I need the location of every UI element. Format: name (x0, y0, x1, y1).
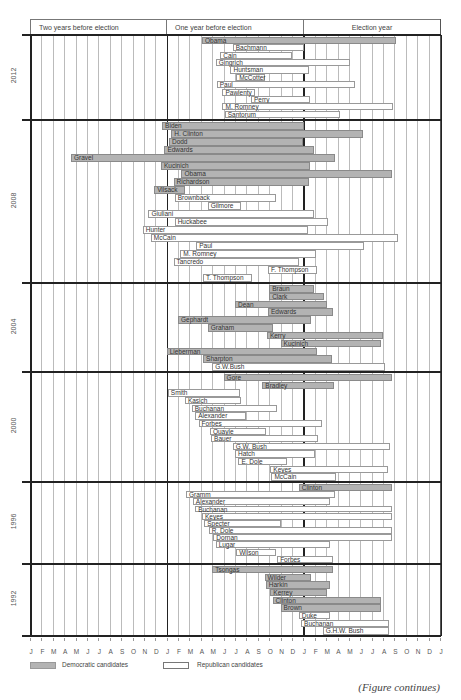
axis-tick (87, 638, 88, 641)
candidate-bar-dem: Gephardt (178, 316, 311, 324)
axis-tick (281, 638, 282, 641)
candidate-bar-rep: Huckabee (175, 218, 329, 226)
month-label: J (220, 648, 230, 655)
candidate-bar-rep: McCain (271, 473, 336, 480)
section-divider (22, 119, 441, 121)
candidate-bar-rep: Buchanan (195, 506, 392, 513)
candidate-bar-dem: Obama (202, 37, 396, 44)
candidate-bar-rep: Quayle (210, 428, 266, 435)
axis-tick (235, 638, 236, 641)
month-label: J (368, 648, 378, 655)
candidate-bar-dem: Kucinich (281, 340, 381, 348)
chart-bottom-line (22, 635, 441, 637)
section-divider (22, 563, 441, 565)
axis-tick (41, 638, 42, 641)
candidate-bar-rep: T. Thompson (203, 274, 252, 282)
axis-tick (292, 638, 293, 641)
month-label: M (345, 648, 355, 655)
candidate-bar-rep: G.W. Bush (233, 443, 390, 450)
candidate-bar-rep: Buchanan (301, 620, 389, 627)
candidate-bar-rep: Forbes (277, 556, 333, 563)
axis-tick (417, 638, 418, 641)
candidate-bar-dem: Obama (181, 170, 392, 178)
candidate-bar-rep: Dornan (213, 534, 392, 541)
candidate-bar-dem: Clinton (299, 484, 392, 491)
candidate-bar-dem: Graham (208, 324, 273, 332)
candidate-bar-dem: Edwards (164, 146, 313, 154)
month-label: N (413, 648, 423, 655)
month-label: J (83, 648, 93, 655)
candidate-bar-rep: Bauer (211, 435, 318, 442)
candidate-bar-rep: McCotter (236, 74, 264, 81)
header-two-years-before: Two years before election (30, 19, 167, 35)
candidate-bar-dem: Kerry (267, 332, 383, 340)
section-divider (22, 282, 441, 284)
candidate-bar-dem: Wilder (265, 574, 312, 581)
header-label: Election year (352, 24, 392, 31)
candidate-bar-dem: H. Clinton (171, 130, 362, 138)
month-grid-line (53, 35, 54, 636)
month-label: A (334, 648, 344, 655)
candidate-bar-rep: Buchanan (192, 405, 277, 412)
axis-tick (429, 638, 430, 641)
axis-tick (338, 638, 339, 641)
month-grid-line (406, 35, 407, 636)
month-label: J (356, 648, 366, 655)
section-divider (22, 371, 441, 373)
candidate-bar-rep: Brownback (175, 194, 276, 202)
candidate-bar-rep: R. Dole (209, 527, 392, 534)
month-grid-line (98, 35, 99, 636)
section-year-label: 2008 (10, 185, 17, 215)
month-grid-line (121, 35, 122, 636)
legend-label-republican: Republican candidates (197, 661, 263, 668)
candidate-bar-rep: E. Dole (238, 458, 287, 465)
axis-tick (110, 638, 111, 641)
month-label: S (254, 648, 264, 655)
month-label: D (425, 648, 435, 655)
month-label: M (322, 648, 332, 655)
candidate-bar-dem: Gore (224, 374, 393, 381)
legend-swatch-republican (163, 662, 189, 669)
axis-tick (394, 638, 395, 641)
candidate-bar-rep: Alexander (195, 412, 246, 419)
month-label: A (242, 648, 252, 655)
month-grid-line (429, 35, 430, 636)
candidate-bar-dem: Braun (269, 285, 313, 293)
candidate-bar-dem: Clark (269, 293, 324, 301)
chart-right-border (440, 19, 441, 636)
year-divider-line (30, 35, 32, 636)
candidate-bar-rep: McCain (151, 234, 398, 242)
axis-tick (167, 638, 168, 641)
candidate-bar-rep: Keyes (202, 513, 392, 520)
candidate-bar-dem: Tsongas (212, 566, 333, 573)
header-label: One year before election (175, 24, 252, 31)
candidate-bar-rep: Huntsman (230, 66, 309, 73)
section-year-label: 2012 (10, 61, 17, 91)
candidate-bar-dem: Gravel (71, 154, 335, 162)
axis-tick (133, 638, 134, 641)
axis-tick (30, 638, 31, 641)
candidate-bar-dem: Lieberman (167, 348, 317, 356)
candidate-bar-dem: Dean (235, 301, 327, 309)
section-year-label: 1996 (10, 507, 17, 537)
axis-tick (246, 638, 247, 641)
section-year-label: 2000 (10, 411, 17, 441)
figure-continues-note: (Figure continues) (358, 681, 440, 693)
month-label: M (49, 648, 59, 655)
candidate-bar-rep: Wilson (236, 549, 276, 556)
axis-tick (189, 638, 190, 641)
candidate-bar-rep: Gramm (186, 491, 335, 498)
axis-tick (144, 638, 145, 641)
month-grid-line (133, 35, 134, 636)
month-label: D (288, 648, 298, 655)
axis-tick (155, 638, 156, 641)
axis-tick (76, 638, 77, 641)
axis-tick (383, 638, 384, 641)
month-grid-line (64, 35, 65, 636)
candidate-bar-rep: Perry (251, 96, 310, 103)
candidate-bar-dem: Edwards (268, 308, 333, 316)
axis-tick (349, 638, 350, 641)
axis-tick (121, 638, 122, 641)
month-label: F (174, 648, 184, 655)
candidate-bar-rep: Giuliani (148, 210, 313, 218)
